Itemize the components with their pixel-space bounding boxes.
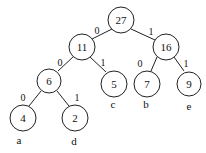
edge-label-27-16: 1 — [149, 26, 154, 37]
node-27: 27 — [108, 7, 134, 33]
node-5: 5 — [101, 71, 127, 97]
node-16: 16 — [153, 34, 179, 60]
leaf-label-b: b — [143, 98, 149, 110]
edge-16-9 — [174, 57, 184, 71]
node-value: 4 — [20, 112, 26, 124]
leaf-label-e: e — [187, 100, 192, 112]
node-value: 9 — [186, 78, 192, 90]
node-7: 7 — [134, 71, 160, 97]
node-value: 16 — [161, 41, 173, 53]
node-value: 7 — [144, 78, 150, 90]
edge-label-6-2: 1 — [75, 92, 80, 103]
node-2: 2 — [62, 105, 88, 131]
node-6: 6 — [37, 69, 61, 93]
node-value: 6 — [46, 75, 52, 87]
leaf-label-a: a — [17, 134, 22, 146]
edge-6-2 — [57, 91, 69, 106]
node-9: 9 — [177, 72, 201, 96]
node-value: 27 — [116, 14, 128, 26]
edge-label-27-11: 0 — [95, 25, 100, 36]
node-11: 11 — [69, 34, 95, 60]
leaf-label-c: c — [111, 98, 116, 110]
edge-label-11-5: 1 — [101, 57, 106, 68]
edge-label-6-4: 0 — [21, 92, 26, 103]
leaf-labels: c b e a d — [17, 98, 192, 147]
huffman-tree-diagram: 0 1 0 1 0 1 0 1 27 11 16 6 5 7 9 4 — [0, 0, 206, 153]
leaf-label-d: d — [71, 135, 77, 147]
edge-6-4 — [29, 91, 41, 106]
node-value: 5 — [111, 78, 117, 90]
node-value: 11 — [77, 41, 88, 53]
node-value: 2 — [72, 112, 78, 124]
edge-16-7 — [151, 57, 157, 71]
node-4: 4 — [10, 105, 36, 131]
edge-label-16-7: 0 — [138, 58, 143, 69]
edge-label-16-9: 1 — [184, 58, 189, 69]
edge-label-11-6: 0 — [58, 57, 63, 68]
